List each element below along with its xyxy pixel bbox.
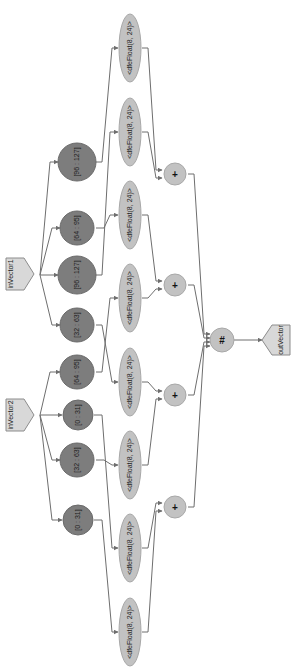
slice-node[interactable]: [96 : 127]: [58, 256, 96, 294]
slice-node[interactable]: [32 : 63]: [60, 443, 94, 477]
adder-node[interactable]: +: [164, 496, 186, 518]
adder-node[interactable]: +: [164, 384, 186, 406]
output-port-label: outVector: [277, 325, 284, 355]
cast-node[interactable]: <dfeFloat(8, 24)>: [119, 181, 141, 249]
slice-label: [32 : 63]: [73, 312, 81, 337]
dataflow-graph: inVector1 inVector2 outVector [96 : 127]…: [0, 0, 296, 670]
input-port-invector1[interactable]: inVector1: [6, 258, 34, 290]
slice-node[interactable]: [0 : 31]: [63, 505, 93, 535]
cast-node[interactable]: <dfeFloat(8, 24)>: [119, 264, 141, 332]
concat-node[interactable]: #: [210, 328, 234, 352]
cast-node[interactable]: <dfeFloat(8, 24)>: [119, 14, 141, 82]
input-port-label: inVector2: [7, 400, 14, 429]
cast-label: <dfeFloat(8, 24)>: [126, 105, 134, 159]
slice-node[interactable]: [64 : 95]: [60, 211, 94, 245]
cast-node[interactable]: <dfeFloat(8, 24)>: [119, 348, 141, 416]
output-port-outvector[interactable]: outVector: [262, 325, 290, 355]
hash-icon: #: [219, 335, 225, 346]
cast-label: <dfeFloat(8, 24)>: [126, 188, 134, 242]
slice-label: [0 : 31]: [74, 404, 82, 425]
input-port-invector2[interactable]: inVector2: [6, 399, 34, 431]
slice-label: [64 : 95]: [73, 359, 81, 384]
plus-icon: +: [172, 502, 178, 513]
slice-label: [96 : 127]: [73, 147, 81, 176]
cast-label: <dfeFloat(8, 24)>: [126, 271, 134, 325]
slice-label: [96 : 127]: [73, 260, 81, 289]
cast-label: <dfeFloat(8, 24)>: [126, 21, 134, 75]
cast-node[interactable]: <dfeFloat(8, 24)>: [119, 98, 141, 166]
cast-label: <dfeFloat(8, 24)>: [126, 355, 134, 409]
slice-node[interactable]: [64 : 95]: [60, 355, 94, 389]
slice-label: [64 : 95]: [73, 215, 81, 240]
plus-icon: +: [172, 280, 178, 291]
plus-icon: +: [172, 169, 178, 180]
slice-label: [0 : 31]: [74, 509, 82, 530]
slice-label: [32 : 63]: [73, 447, 81, 472]
cast-node[interactable]: <dfeFloat(8, 24)>: [119, 514, 141, 582]
slice-node[interactable]: [0 : 31]: [63, 400, 93, 430]
plus-icon: +: [172, 390, 178, 401]
adder-node[interactable]: +: [164, 274, 186, 296]
slice-node[interactable]: [96 : 127]: [58, 143, 96, 181]
input-port-label: inVector1: [7, 259, 14, 288]
cast-node[interactable]: <dfeFloat(8, 24)>: [119, 431, 141, 499]
cast-label: <dfeFloat(8, 24)>: [126, 605, 134, 659]
cast-label: <dfeFloat(8, 24)>: [126, 438, 134, 492]
cast-node[interactable]: <dfeFloat(8, 24)>: [119, 598, 141, 666]
slice-node[interactable]: [32 : 63]: [60, 308, 94, 342]
cast-label: <dfeFloat(8, 24)>: [126, 521, 134, 575]
adder-node[interactable]: +: [164, 163, 186, 185]
